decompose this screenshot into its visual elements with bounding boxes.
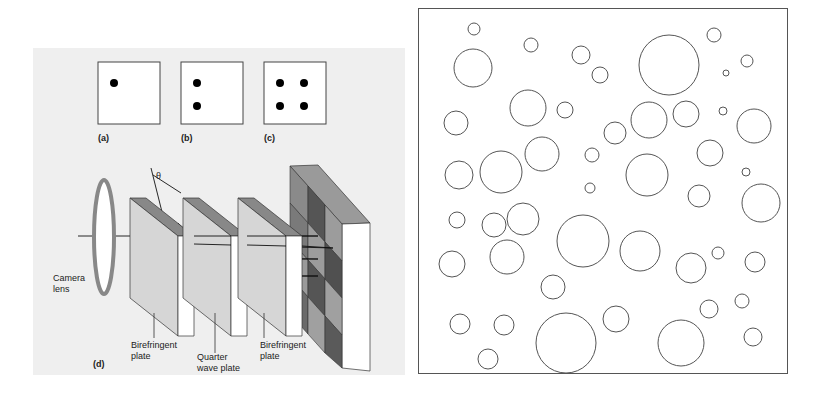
- circle: [480, 151, 522, 193]
- circle: [454, 49, 492, 87]
- circle: [585, 148, 599, 162]
- circle: [697, 140, 723, 166]
- circle: [510, 90, 546, 126]
- plate2-label-1: Birefringent: [260, 340, 307, 350]
- circle: [494, 315, 514, 335]
- subfigure-b-label: (b): [181, 133, 193, 143]
- circle: [585, 183, 595, 193]
- circle: [449, 212, 465, 228]
- circle: [525, 137, 559, 171]
- circle: [712, 247, 724, 259]
- subfigure-d-label: (d): [93, 359, 105, 369]
- circle: [541, 275, 565, 299]
- circle: [741, 55, 753, 67]
- circle: [450, 314, 470, 334]
- circle: [735, 294, 749, 308]
- qwp-label-1: Quarter: [197, 352, 228, 362]
- circle: [745, 252, 765, 272]
- circle: [673, 101, 699, 127]
- circle: [737, 109, 771, 143]
- subfigure-c: (c): [264, 62, 326, 143]
- circle: [744, 328, 762, 346]
- plate2-label-2: plate: [260, 351, 280, 361]
- circle: [742, 168, 750, 176]
- optical-diagram: (a) (b) (c): [33, 48, 405, 375]
- circle: [700, 300, 718, 318]
- circle: [468, 23, 480, 35]
- camera-lens: [94, 180, 114, 294]
- circle: [620, 231, 660, 271]
- circle: [557, 215, 609, 267]
- circle: [490, 240, 524, 274]
- camera-lens-label-2: lens: [53, 284, 70, 294]
- circle: [572, 46, 590, 64]
- subfigure-c-label: (c): [264, 133, 275, 143]
- circle: [439, 251, 465, 277]
- subfigure-a-label: (a): [98, 133, 109, 143]
- circle: [626, 154, 668, 196]
- circle: [658, 320, 704, 366]
- circles-figure: [419, 9, 789, 375]
- subfigure-a: (a): [98, 62, 160, 143]
- circle: [707, 28, 721, 42]
- circle: [482, 213, 506, 237]
- subfigure-b: (b): [181, 62, 243, 143]
- theta-symbol: θ: [156, 171, 161, 181]
- circle: [603, 306, 629, 332]
- circle: [723, 70, 729, 76]
- circle: [639, 35, 699, 95]
- circle: [557, 102, 573, 118]
- optical-diagram-panel: (a) (b) (c): [33, 48, 405, 375]
- circle: [676, 253, 706, 283]
- qwp-label-2: wave plate: [196, 363, 240, 373]
- circle: [742, 184, 780, 222]
- circle: [524, 38, 538, 52]
- circle: [604, 122, 626, 144]
- plate1-label-2: plate: [131, 351, 151, 361]
- plate1-label-1: Birefringent: [131, 340, 178, 350]
- circle: [631, 102, 667, 138]
- circle: [444, 111, 468, 135]
- circle: [688, 185, 710, 207]
- camera-lens-label-1: Camera: [53, 273, 85, 283]
- circle: [507, 203, 539, 235]
- circles-panel: [418, 8, 788, 374]
- circle: [592, 67, 608, 83]
- circle: [445, 161, 473, 189]
- circle: [478, 349, 498, 369]
- circle: [719, 107, 727, 115]
- circle: [536, 313, 596, 373]
